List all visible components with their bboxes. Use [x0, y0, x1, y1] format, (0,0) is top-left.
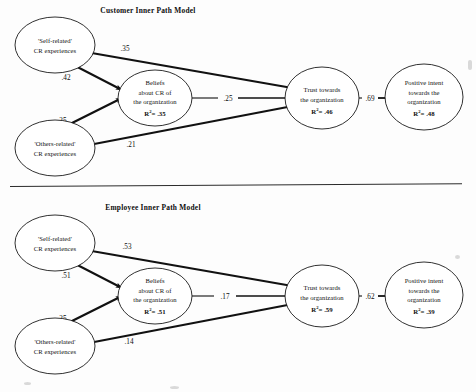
node-intent-line3: organization — [407, 98, 441, 105]
node-others-line1: 'Others-related' — [35, 338, 76, 345]
node-intent-line2: towards the — [408, 287, 439, 294]
node-trust-line1: Trust towards — [304, 284, 341, 291]
node-beliefs-line1: Beliefs — [145, 79, 164, 86]
node-self-line2: CR experiences — [34, 245, 77, 252]
node-trust-line2: the organization — [300, 96, 344, 103]
node-others-related: 'Others-related' CR experiences — [15, 318, 95, 374]
node-intent-line2: towards the — [408, 89, 439, 96]
node-self-line2: CR experiences — [34, 47, 77, 54]
coef-others-trust: .14 — [125, 338, 134, 346]
customer-panel-title: Customer Inner Path Model — [100, 6, 195, 15]
scan-speck — [468, 60, 472, 70]
node-beliefs-line3: the organization — [133, 98, 177, 105]
employee-panel-title: Employee Inner Path Model — [105, 203, 200, 212]
node-intent-line1: Positive intent — [405, 277, 444, 284]
node-beliefs-line2: about CR of — [139, 89, 173, 96]
coef-trust-intent: .62 — [366, 293, 375, 301]
node-beliefs: Beliefs about CR of the organization R2=… — [118, 70, 192, 126]
employee-model-panel: Employee Inner Path Model .53 .51 .25 .1… — [0, 196, 476, 392]
node-others-related: 'Others-related' CR experiences — [15, 120, 95, 176]
node-self-related: 'Self-related' CR experiences — [15, 215, 95, 271]
node-intent-r2: R2= .48 — [413, 109, 435, 117]
node-beliefs-line1: Beliefs — [145, 277, 164, 284]
node-trust-r2: R2= .59 — [311, 305, 333, 313]
node-others-line2: CR experiences — [34, 348, 77, 355]
node-trust: Trust towards the organization R2= .59 — [285, 265, 359, 327]
node-intent-line1: Positive intent — [405, 79, 444, 86]
node-beliefs-r2: R2= .51 — [144, 307, 166, 315]
customer-diagram-canvas: Customer Inner Path Model .35 .42 .25 .2… — [0, 0, 476, 196]
node-positive-intent: Positive intent towards the organization… — [385, 64, 463, 130]
node-beliefs-r2: R2= .35 — [144, 109, 166, 117]
node-self-line1: 'Self-related' — [38, 37, 72, 44]
coef-self-beliefs: .42 — [62, 74, 71, 82]
coef-self-trust: .35 — [121, 45, 130, 53]
node-others-line2: CR experiences — [34, 150, 77, 157]
node-intent-line3: organization — [407, 296, 441, 303]
node-beliefs: Beliefs about CR of the organization R2=… — [118, 268, 192, 324]
employee-diagram-canvas: Employee Inner Path Model .53 .51 .25 .1… — [0, 196, 476, 392]
coef-beliefs-trust: .25 — [224, 95, 233, 103]
scan-speck — [455, 255, 460, 259]
node-trust-r2: R2= .46 — [311, 107, 333, 115]
node-trust-line1: Trust towards — [304, 86, 341, 93]
coef-self-trust: .53 — [123, 243, 132, 251]
node-self-line1: 'Self-related' — [38, 235, 72, 242]
node-beliefs-line2: about CR of — [139, 287, 173, 294]
coef-others-trust: .21 — [127, 141, 136, 149]
node-self-related: 'Self-related' CR experiences — [15, 17, 95, 73]
coef-self-beliefs: .51 — [62, 272, 71, 280]
node-intent-r2: R2= .39 — [413, 307, 435, 315]
node-beliefs-line3: the organization — [133, 296, 177, 303]
coef-beliefs-trust: .17 — [221, 293, 230, 301]
path-diagram-figure: Customer Inner Path Model .35 .42 .25 .2… — [0, 0, 476, 392]
node-positive-intent: Positive intent towards the organization… — [385, 262, 463, 328]
node-trust-line2: the organization — [300, 294, 344, 301]
coef-trust-intent: .69 — [366, 95, 375, 103]
node-others-line1: 'Others-related' — [35, 140, 76, 147]
node-trust: Trust towards the organization R2= .46 — [285, 67, 359, 129]
scan-speck — [24, 382, 31, 385]
scan-speck — [170, 386, 179, 389]
customer-model-panel: Customer Inner Path Model .35 .42 .25 .2… — [0, 0, 476, 196]
